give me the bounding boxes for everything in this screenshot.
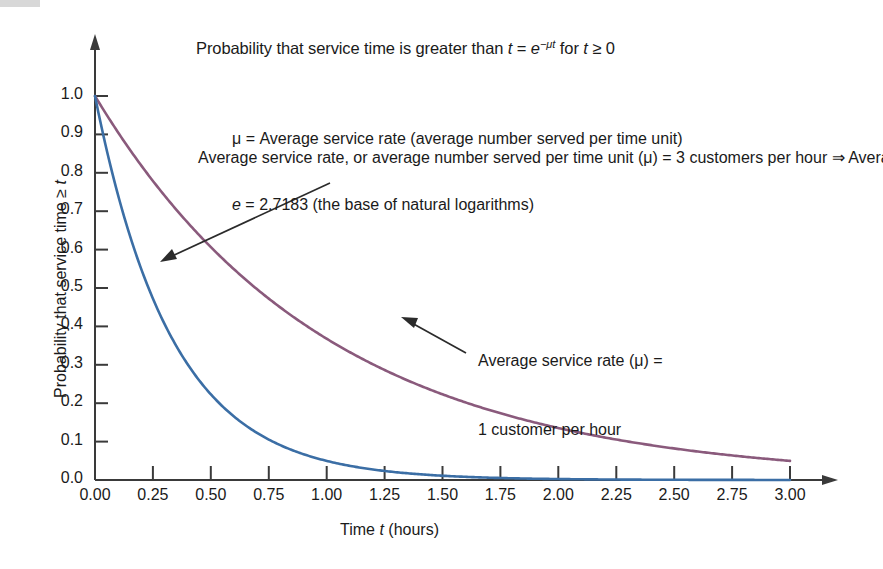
y-tick-label: 0.5 bbox=[39, 277, 83, 295]
y-tick-label: 0.2 bbox=[39, 392, 83, 410]
x-tick-label: 1.50 bbox=[415, 486, 471, 504]
definitions-block: μ = Average service rate (average number… bbox=[232, 84, 682, 260]
definition-e-symbol: e bbox=[232, 196, 241, 213]
y-axis-title-var: t bbox=[52, 180, 69, 184]
x-tick-label: 1.00 bbox=[299, 486, 355, 504]
x-tick-label: 0.75 bbox=[241, 486, 297, 504]
x-tick-label: 0.25 bbox=[125, 486, 181, 504]
y-tick-label: 0.8 bbox=[39, 162, 83, 180]
annotation-mu1-line2: 1 customer per hour bbox=[478, 418, 663, 441]
annotation-mu1-text: Average service rate (μ) = 1 customer pe… bbox=[478, 303, 663, 487]
chart-title-condition: ≥ 0 bbox=[588, 39, 615, 57]
x-tick-label: 1.25 bbox=[357, 486, 413, 504]
annotation-mu1-line1: Average service rate (μ) = bbox=[478, 349, 663, 372]
chart-figure: Probability that service time is greater… bbox=[0, 0, 883, 569]
chart-title-exponent: −μt bbox=[540, 38, 556, 50]
x-axis-title-lead: Time bbox=[340, 521, 379, 538]
chart-title-base-e: e bbox=[531, 39, 540, 57]
chart-title: Probability that service time is greater… bbox=[196, 38, 615, 58]
y-tick-label: 0.1 bbox=[39, 431, 83, 449]
x-tick-label: 2.25 bbox=[588, 486, 644, 504]
y-tick-label: 0.3 bbox=[39, 354, 83, 372]
chart-title-lead: Probability that service time is greater… bbox=[196, 39, 508, 57]
x-tick-label: 0.50 bbox=[183, 486, 239, 504]
x-tick-label: 0.00 bbox=[67, 486, 123, 504]
x-tick-label: 2.50 bbox=[646, 486, 702, 504]
annotation-mu3-text: Average service rate, or average number … bbox=[198, 146, 878, 169]
x-axis-title-tail: (hours) bbox=[384, 521, 439, 538]
x-tick-label: 1.75 bbox=[472, 486, 528, 504]
x-tick-label: 3.00 bbox=[762, 486, 818, 504]
x-axis-ticks bbox=[95, 466, 790, 480]
y-tick-label: 0.9 bbox=[39, 123, 83, 141]
x-axis-title: Time t (hours) bbox=[340, 521, 439, 539]
chart-title-equals: = bbox=[512, 39, 531, 57]
annotation-arrow-mu1 bbox=[401, 317, 466, 353]
y-tick-label: 0.7 bbox=[39, 200, 83, 218]
x-tick-label: 2.00 bbox=[530, 486, 586, 504]
y-tick-label: 0.6 bbox=[39, 239, 83, 257]
chart-title-for: for bbox=[555, 39, 583, 57]
y-tick-label: 0.0 bbox=[39, 469, 83, 487]
y-axis-ticks bbox=[95, 96, 108, 480]
definition-e: e = 2.7183 (the base of natural logarith… bbox=[232, 194, 682, 216]
y-tick-label: 1.0 bbox=[39, 85, 83, 103]
x-tick-label: 2.75 bbox=[704, 486, 760, 504]
y-tick-label: 0.4 bbox=[39, 315, 83, 333]
definition-e-text: = 2.7183 (the base of natural logarithms… bbox=[241, 196, 534, 213]
